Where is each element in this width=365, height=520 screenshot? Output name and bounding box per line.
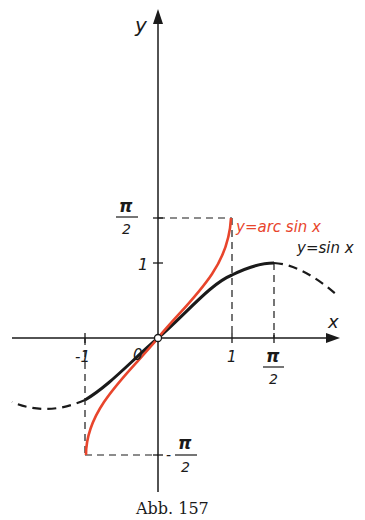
arcsin-label: y=arc sin x bbox=[235, 218, 321, 236]
svg-text:2: 2 bbox=[122, 221, 131, 237]
sin-curve-solid bbox=[85, 263, 274, 400]
ticks bbox=[85, 218, 274, 455]
svg-text:-: - bbox=[166, 447, 171, 463]
x-tick-1: 1 bbox=[227, 348, 237, 366]
svg-text:π: π bbox=[119, 196, 133, 216]
sin-label: y=sin x bbox=[296, 239, 354, 257]
y-axis-label: y bbox=[134, 13, 148, 37]
figure-caption: Abb. 157 bbox=[135, 499, 209, 518]
y-axis-arrow-icon bbox=[153, 9, 163, 24]
x-tick-pi-over-2: π 2 bbox=[263, 346, 284, 387]
sin-curve-dashed-right bbox=[274, 263, 338, 296]
x-axis-label: x bbox=[327, 311, 339, 332]
y-tick-1: 1 bbox=[138, 255, 148, 274]
svg-text:π: π bbox=[266, 346, 280, 366]
x-axis-arrow-icon bbox=[326, 333, 340, 343]
svg-text:π: π bbox=[178, 433, 192, 453]
origin-point bbox=[155, 335, 162, 342]
y-tick-minus-pi-over-2: - π 2 bbox=[166, 433, 197, 475]
x-tick-minus-1: -1 bbox=[75, 348, 90, 366]
y-tick-pi-over-2: π 2 bbox=[116, 196, 138, 237]
guide-lines bbox=[85, 218, 274, 455]
sin-curve-dashed-left bbox=[12, 400, 85, 409]
svg-text:2: 2 bbox=[269, 371, 278, 387]
origin-label: 0 bbox=[133, 346, 143, 364]
axes bbox=[12, 18, 332, 492]
function-plot: y x -1 0 1 π 2 1 π 2 - π 2 y=arc sin x y… bbox=[0, 0, 365, 520]
svg-text:2: 2 bbox=[181, 459, 190, 475]
